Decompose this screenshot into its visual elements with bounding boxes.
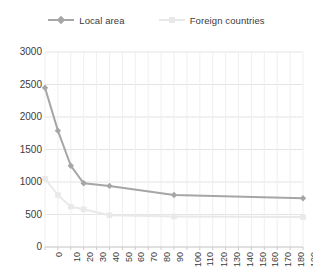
x-tick-label: 0 bbox=[54, 252, 64, 257]
y-tick-label: 2500 bbox=[4, 80, 42, 90]
y-tick-label: 3000 bbox=[4, 47, 42, 57]
data-point-diamond bbox=[106, 183, 112, 189]
x-tick-label: 180 bbox=[296, 252, 306, 267]
x-tick-label: 130 bbox=[232, 252, 242, 267]
x-tick-label: 140 bbox=[245, 252, 255, 267]
data-point-square bbox=[68, 204, 74, 210]
data-point-square bbox=[107, 212, 113, 218]
data-point-square bbox=[81, 207, 87, 213]
x-tick-label: 40 bbox=[111, 252, 121, 262]
x-tick-label: 90 bbox=[175, 252, 185, 262]
y-tick-label: 0 bbox=[4, 242, 42, 252]
x-tick-label: 70 bbox=[149, 252, 159, 262]
y-tick-label: 2000 bbox=[4, 112, 42, 122]
plot-area: 050010001500200025003000 010203040506070… bbox=[0, 0, 313, 278]
x-tick-label: 30 bbox=[98, 252, 108, 262]
x-tick-label: 20 bbox=[85, 252, 95, 262]
x-tick-label: 80 bbox=[162, 252, 172, 262]
x-tick-label: 100 bbox=[193, 252, 203, 267]
data-point-square bbox=[171, 214, 177, 220]
data-point-square bbox=[55, 192, 61, 198]
x-tick-label: 160 bbox=[270, 252, 280, 267]
x-tick-label: 150 bbox=[258, 252, 268, 267]
y-tick-label: 500 bbox=[4, 210, 42, 220]
x-tick-label: 190 bbox=[309, 252, 313, 267]
y-tick-label: 1500 bbox=[4, 145, 42, 155]
chart-container: Local area Foreign countries 05001000150… bbox=[0, 0, 313, 278]
y-tick-label: 1000 bbox=[4, 177, 42, 187]
data-point-diamond bbox=[55, 127, 61, 133]
x-tick-label: 110 bbox=[205, 252, 215, 266]
data-point-diamond bbox=[300, 195, 306, 201]
data-point-diamond bbox=[171, 192, 177, 198]
x-tick-label: 170 bbox=[283, 252, 293, 267]
x-tick-label: 50 bbox=[124, 252, 134, 262]
data-point-square bbox=[42, 176, 48, 182]
x-tick-label: 60 bbox=[136, 252, 146, 262]
data-point-square bbox=[300, 214, 306, 220]
x-tick-label: 120 bbox=[219, 252, 229, 267]
line-chart-svg bbox=[0, 0, 313, 278]
data-point-diamond bbox=[42, 85, 48, 91]
x-tick-label: 10 bbox=[72, 252, 82, 262]
